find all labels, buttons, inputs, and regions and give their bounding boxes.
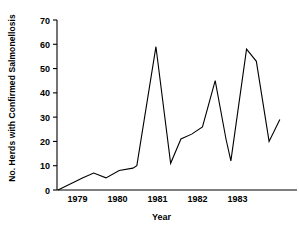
x-axis-title: Year [24, 212, 299, 222]
y-axis-title: No. Herds with Confirmed Salmonellosis [0, 0, 24, 196]
y-tick-label-10: 10 [40, 161, 50, 171]
y-tick-label-70: 70 [40, 16, 50, 26]
x-tick-label-1980: 1980 [107, 194, 127, 202]
data-series-line [58, 47, 280, 190]
y-tick-label-50: 50 [40, 64, 50, 74]
plot-area: 70 60 50 40 30 20 10 0 1979 1980 1981 19… [24, 6, 299, 202]
y-axis-title-text: No. Herds with Confirmed Salmonellosis [7, 14, 17, 182]
x-tick-label-1981: 1981 [147, 194, 167, 202]
y-tick-label-60: 60 [40, 40, 50, 50]
y-tick-label-0: 0 [45, 186, 50, 196]
x-tick-label-1979: 1979 [67, 194, 87, 202]
y-tick-label-40: 40 [40, 88, 50, 98]
line-chart-svg: 70 60 50 40 30 20 10 0 1979 1980 1981 19… [24, 6, 299, 202]
y-axis-group: 70 60 50 40 30 20 10 0 [40, 16, 57, 196]
x-tick-label-1982: 1982 [187, 194, 207, 202]
y-tick-label-20: 20 [40, 137, 50, 147]
y-tick-label-30: 30 [40, 113, 50, 123]
x-tick-label-1983: 1983 [227, 194, 247, 202]
x-axis-group: 1979 1980 1981 1982 1983 [57, 190, 297, 202]
chart-figure: No. Herds with Confirmed Salmonellosis 7… [0, 0, 299, 237]
